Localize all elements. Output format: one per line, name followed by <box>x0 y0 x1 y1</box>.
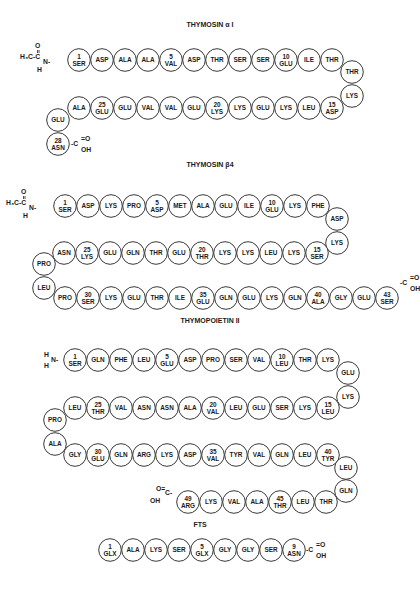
residue-lys: LYS <box>294 397 317 420</box>
residue-name: GLU <box>172 249 186 256</box>
svg-text:H: H <box>44 362 49 369</box>
residue-name: PRO <box>127 202 141 209</box>
residue-val: VAL <box>248 349 271 372</box>
residue-name: VAL <box>142 104 154 111</box>
residue-asn: 28ASN <box>47 133 70 156</box>
residue-glx: 1GLX <box>99 539 122 562</box>
residue-number: 25 <box>94 401 102 408</box>
c-terminus-carboxyl: O=C-OH <box>150 485 172 504</box>
svg-text:O: O <box>21 188 26 195</box>
residue-val: VAL <box>137 97 160 120</box>
residue-number: 9 <box>292 543 296 550</box>
residue-asp: ASP <box>326 208 349 231</box>
residue-name: GLU <box>256 104 270 111</box>
residue-glu: 35GLU <box>192 287 215 310</box>
residue-name: GLN <box>275 451 289 458</box>
peptide-residues: 1SERASPALAALA5VALASPTHRSERSER10GLUILETHR… <box>33 49 399 562</box>
residue-lys: LYS <box>275 97 298 120</box>
residue-glu: GLU <box>114 97 137 120</box>
residue-name: ALA <box>48 440 62 447</box>
residue-name: LYS <box>211 108 224 115</box>
residue-glu: 10GLU <box>275 49 298 72</box>
residue-phe: PHE <box>110 349 133 372</box>
residue-glu: GLU <box>215 195 238 218</box>
svg-text:OH: OH <box>81 146 91 153</box>
residue-name: PRO <box>206 356 220 363</box>
residue-name: LEU <box>69 404 82 411</box>
residue-number: 30 <box>94 448 102 455</box>
residue-name: ASP <box>95 56 109 63</box>
residue-number: 28 <box>54 137 62 144</box>
residue-glu: GLU <box>248 397 271 420</box>
residue-name: GLN <box>339 487 353 494</box>
residue-ser: 1SER <box>68 49 91 72</box>
residue-name: GLU <box>95 108 109 115</box>
residue-ser: 1SER <box>64 349 87 372</box>
residue-name: THR <box>345 68 359 75</box>
residue-number: 1 <box>63 199 67 206</box>
residue-gln: GLN <box>271 444 294 467</box>
residue-asp: 5ASP <box>146 195 169 218</box>
residue-name: MET <box>173 202 187 209</box>
residue-asp: 15ASP <box>321 97 344 120</box>
residue-gln: GLN <box>284 287 307 310</box>
residue-leu: LEU <box>294 444 317 467</box>
residue-name: GLU <box>103 249 117 256</box>
c-terminus-carboxyl: -C=OOH <box>400 274 420 292</box>
residue-glu: 5GLU <box>156 349 179 372</box>
peptide-title: THYMOSIN α I <box>186 21 233 28</box>
residue-name: GLU <box>265 206 279 213</box>
residue-name: LYS <box>346 92 359 99</box>
residue-number: 49 <box>184 495 192 502</box>
residue-leu: LEU <box>64 397 87 420</box>
residue-name: GLY <box>219 546 232 553</box>
svg-text:N-: N- <box>43 58 50 65</box>
residue-thr: THR <box>321 49 344 72</box>
residue-thr: THR <box>145 242 168 265</box>
residue-name: PHE <box>114 356 128 363</box>
residue-number: 5 <box>155 199 159 206</box>
residue-thr: THR <box>315 491 338 514</box>
residue-number: 10 <box>278 353 286 360</box>
residue-name: GLU <box>118 104 132 111</box>
residue-met: MET <box>169 195 192 218</box>
residue-name: VAL <box>165 60 177 67</box>
c-terminus-carboxyl: -C=OOH <box>306 541 326 559</box>
residue-name: GLY <box>69 451 82 458</box>
residue-ala: ALA <box>192 195 215 218</box>
residue-ala: ALA <box>114 49 137 72</box>
residue-name: GLU <box>341 369 355 376</box>
residue-name: LYS <box>288 249 301 256</box>
residue-ser: SER <box>252 49 275 72</box>
residue-name: SER <box>256 56 270 63</box>
residue-number: 35 <box>199 291 207 298</box>
residue-number: 30 <box>84 291 92 298</box>
residue-ala: ALA <box>68 97 91 120</box>
residue-ala: ALA <box>137 49 160 72</box>
residue-name: GLU <box>91 455 105 462</box>
residue-name: LYS <box>205 498 218 505</box>
residue-name: LEU <box>38 284 51 291</box>
residue-gln: GLN <box>335 480 358 503</box>
residue-name: LYS <box>299 404 312 411</box>
residue-name: THR <box>210 56 224 63</box>
residue-number: 5 <box>200 543 204 550</box>
residue-number: 15 <box>328 101 336 108</box>
residue-name: ALA <box>196 202 210 209</box>
peptide-title: FTS <box>193 521 207 528</box>
residue-name: THR <box>195 253 209 260</box>
residue-glu: 25GLU <box>91 97 114 120</box>
residue-name: ASP <box>183 356 197 363</box>
residue-name: LYS <box>322 356 335 363</box>
residue-name: GLU <box>187 104 201 111</box>
residue-ile: ILE <box>298 49 321 72</box>
residue-gln: GLN <box>87 349 110 372</box>
residue-glu: GLU <box>353 287 376 310</box>
residue-name: LYS <box>81 253 94 260</box>
residue-leu: 10LEU <box>271 349 294 372</box>
residue-name: ASN <box>57 249 71 256</box>
residue-gly: GLY <box>330 287 353 310</box>
residue-name: LEU <box>297 498 310 505</box>
residue-ala: ALA <box>44 433 67 456</box>
residue-thr: THR <box>341 61 364 84</box>
